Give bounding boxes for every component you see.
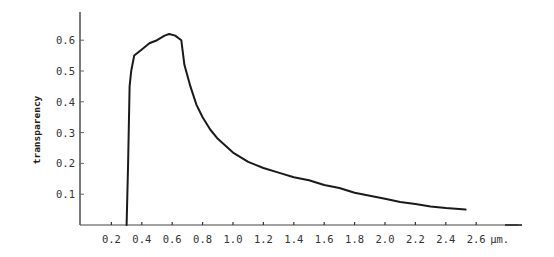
y-tick-label: 0.4 [56,96,75,108]
x-tick-label: 0.2 [102,233,121,245]
x-tick-label: 1.6 [315,233,334,245]
x-tick-label: 0.4 [132,233,151,245]
transparency-curve [127,34,466,225]
x-tick-label: 2.6 [467,233,486,245]
x-tick-label: 1.0 [224,233,243,245]
y-tick-label: 0.6 [56,34,75,46]
x-tick-label: 1.4 [284,233,303,245]
y-axis-title: transparency [31,95,42,164]
x-tick-label: 2.0 [376,233,395,245]
y-tick-label: 0.2 [56,157,75,169]
y-tick-label: 0.3 [56,127,75,139]
transparency-chart: 0.10.20.30.40.50.6 0.20.40.60.81.01.21.4… [0,0,554,257]
x-tick-label: 1.8 [345,233,364,245]
x-tick-label: 0.6 [163,233,182,245]
x-tick-label: 2.2 [406,233,425,245]
x-axis-unit: µm. [490,233,509,245]
y-tick-label: 0.1 [56,188,75,200]
x-tick-label: 0.8 [193,233,212,245]
x-tick-label: 2.4 [436,233,455,245]
y-tick-label: 0.5 [56,65,75,77]
x-tick-label: 1.2 [254,233,273,245]
